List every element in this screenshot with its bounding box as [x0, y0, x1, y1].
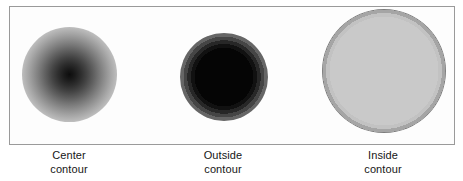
caption-center-line1: Center — [23, 148, 115, 162]
caption-inside-line1: Inside — [321, 148, 445, 162]
caption-center-line2: contour — [23, 162, 115, 176]
contour-illustration-figure: Center contour Outside contour Inside co… — [0, 0, 463, 181]
center-contour-shape — [22, 27, 117, 122]
caption-inside-contour: Inside contour — [321, 148, 445, 176]
caption-center-contour: Center contour — [23, 148, 115, 176]
caption-row: Center contour Outside contour Inside co… — [9, 148, 455, 181]
illustration-panel — [9, 6, 455, 145]
inside-contour-shape — [322, 9, 446, 133]
caption-outside-line1: Outside — [179, 148, 267, 162]
caption-outside-line2: contour — [179, 162, 267, 176]
caption-outside-contour: Outside contour — [179, 148, 267, 176]
caption-inside-line2: contour — [321, 162, 445, 176]
outside-contour-shape — [180, 33, 268, 121]
